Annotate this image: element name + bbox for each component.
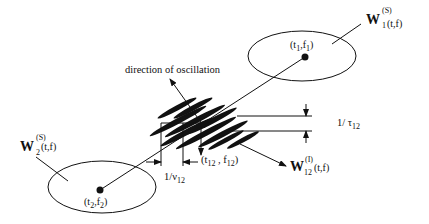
auto-term-1-center-dot — [302, 54, 309, 61]
direction-of-oscillation-label: direction of oscillation — [125, 65, 220, 76]
freq-period-label: 1/ τ12 — [337, 118, 360, 129]
auto-term-2-center-dot — [97, 187, 104, 194]
time-period-label: 1/ν12 — [164, 172, 185, 183]
auto-term-2-label: W (S) 2 (t,f) — [20, 140, 62, 154]
w1-leader-line — [332, 24, 361, 44]
cross-term-leader-arrow — [240, 144, 286, 166]
auto-term-1-label: W (S) 1 (t,f) — [366, 13, 408, 27]
cross-term-coords: (t12 , f12) — [201, 155, 238, 166]
diagram-canvas — [0, 0, 429, 224]
auto-term-1-coords: (t1,f1) — [290, 40, 313, 50]
auto-term-2-coords: (t2,f2) — [84, 197, 107, 207]
cross-term-label: W (I) 12 (t,f) — [290, 160, 338, 174]
